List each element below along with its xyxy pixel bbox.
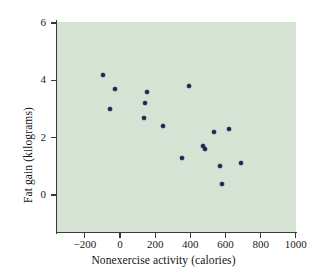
y-axis-title: Fat gain (kilograms): [22, 107, 34, 203]
y-tick-label-4: 4: [6, 74, 46, 85]
data-point: [212, 130, 216, 134]
y-tick-0: [51, 194, 56, 195]
y-tick-label-6: 6: [6, 17, 46, 28]
y-tick-4: [51, 80, 56, 81]
data-point: [108, 107, 112, 111]
data-point: [220, 182, 224, 186]
data-point: [187, 84, 191, 88]
y-axis-line: [56, 20, 57, 234]
data-point: [142, 116, 146, 120]
scatter-plot-figure: 0246 −20002004006008001000 Nonexercise a…: [0, 0, 327, 277]
data-point: [113, 87, 117, 91]
data-point: [145, 90, 149, 94]
x-axis-title: Nonexercise activity (calories): [0, 254, 327, 266]
plot-area: [57, 22, 296, 232]
y-tick-6: [51, 22, 56, 23]
x-tick-label-1000: 1000: [273, 239, 319, 250]
y-tick-2: [51, 137, 56, 138]
